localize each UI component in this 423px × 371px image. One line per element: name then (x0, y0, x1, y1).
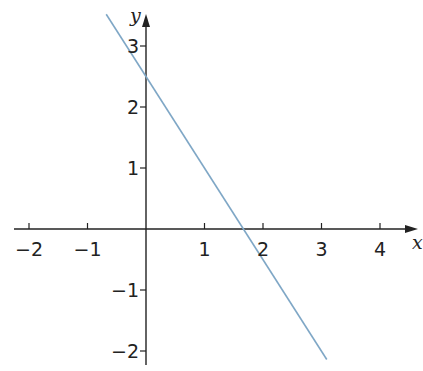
axes (14, 14, 418, 365)
labels: −2−11234−2−1123xy (15, 4, 423, 362)
x-tick-label: 4 (374, 238, 386, 260)
series-line (106, 14, 327, 359)
x-tick-label: −2 (15, 238, 43, 260)
plot-area: −2−11234−2−1123xy (0, 0, 423, 371)
x-tick-label: 1 (198, 238, 210, 260)
y-axis-arrow-icon (142, 14, 150, 27)
x-tick-label: −1 (73, 238, 101, 260)
series (106, 14, 327, 359)
chart: −2−11234−2−1123xy (0, 0, 423, 371)
y-tick-label: 3 (127, 35, 139, 57)
y-tick-label: −2 (111, 340, 139, 362)
y-tick-label: 1 (127, 157, 139, 179)
x-tick-label: 3 (315, 238, 327, 260)
x-axis-label: x (412, 231, 423, 253)
ticks (29, 46, 380, 351)
x-tick-label: 2 (257, 238, 269, 260)
y-axis-label: y (129, 4, 141, 26)
y-tick-label: −1 (111, 279, 139, 301)
y-tick-label: 2 (127, 96, 139, 118)
